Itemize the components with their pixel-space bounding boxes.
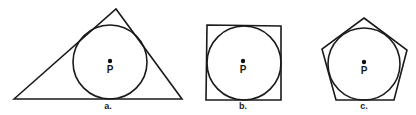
caption-a: a. [104,101,112,111]
center-label-b: P [240,64,247,75]
center-point-b [241,59,245,63]
center-label-c: P [361,65,368,76]
panel-c-pentagon: P c. [322,18,407,111]
inscribed-circles-figure: P a. P b. P c. [0,0,416,115]
figure-canvas: P a. P b. P c. [0,0,416,115]
caption-b: b. [239,101,247,111]
center-point-c [362,60,366,64]
inscribed-circle-b [207,26,281,100]
caption-c: c. [360,101,368,111]
triangle-shape [14,9,182,99]
center-point-a [108,59,112,63]
panel-b-square: P b. [206,25,281,111]
pentagon-shape [322,18,407,100]
panel-a-triangle: P a. [14,9,182,111]
center-label-a: P [107,64,114,75]
